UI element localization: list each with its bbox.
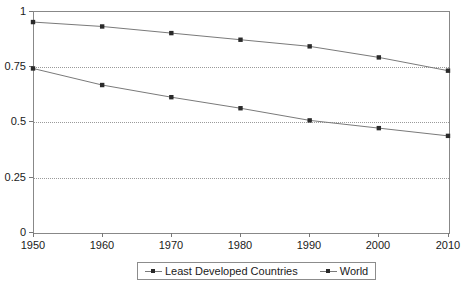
ytick-label-0-5: 0.5: [0, 116, 26, 127]
legend-label-world: World: [340, 266, 369, 277]
legend-label-least-developed-countries: Least Developed Countries: [165, 266, 298, 277]
ytick-label-0: 0: [0, 227, 26, 238]
chart-legend: Least Developed Countries World: [137, 262, 376, 280]
xtick-mark-1990: [309, 233, 310, 237]
gridline-0-5: [34, 122, 449, 123]
gridline-0-25: [34, 178, 449, 179]
line-chart-figure: 1 0.75 0.5 0.25 0 1950 1960 1970 1980 19…: [0, 0, 468, 286]
xtick-label-1980: 1980: [216, 240, 264, 251]
ytick-mark-0-75: [29, 66, 33, 67]
ytick-mark-1: [29, 11, 33, 12]
gridline-0-75: [34, 67, 449, 68]
xtick-label-1950: 1950: [9, 240, 57, 251]
xtick-label-1970: 1970: [147, 240, 195, 251]
xtick-mark-1970: [171, 233, 172, 237]
ytick-mark-0-5: [29, 121, 33, 122]
xtick-mark-1960: [102, 233, 103, 237]
xtick-mark-1950: [33, 233, 34, 237]
xtick-mark-2000: [378, 233, 379, 237]
xtick-label-2000: 2000: [354, 240, 402, 251]
ytick-mark-0-25: [29, 177, 33, 178]
legend-marker-square-icon: [145, 267, 162, 276]
ytick-label-1: 1: [0, 6, 26, 17]
xtick-label-1960: 1960: [78, 240, 126, 251]
xtick-mark-2010: [448, 233, 449, 237]
legend-marker-square-icon: [320, 267, 337, 276]
ytick-label-0-75: 0.75: [0, 61, 26, 72]
plot-area: [33, 11, 450, 234]
xtick-mark-1980: [240, 233, 241, 237]
legend-entry-world: World: [320, 266, 369, 277]
xtick-label-1990: 1990: [285, 240, 333, 251]
legend-entry-least-developed-countries: Least Developed Countries: [145, 266, 298, 277]
ytick-label-0-25: 0.25: [0, 172, 26, 183]
xtick-label-2010: 2010: [424, 240, 468, 251]
